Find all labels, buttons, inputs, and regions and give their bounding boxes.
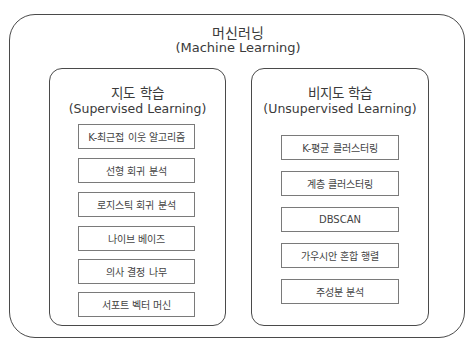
algorithm-item-knn: K-최근접 이웃 알고리즘	[78, 124, 195, 149]
algorithm-item-decision-tree: 의사 결정 나무	[78, 259, 195, 284]
algorithm-item-gaussian-mixture: 가우시안 혼합 행렬	[281, 243, 399, 268]
algorithm-item-pca: 주성분 분석	[281, 279, 399, 304]
algorithm-item-kmeans: K-평균 클러스터링	[281, 135, 399, 160]
algorithm-item-linear-regression: 선형 회귀 분석	[78, 158, 195, 183]
group-title-korean: 비지도 학습	[252, 82, 428, 102]
supervised-learning-group: 지도 학습 (Supervised Learning) K-최근접 이웃 알고리…	[49, 68, 226, 326]
algorithm-item-logistic-regression: 로지스틱 회귀 분석	[78, 192, 195, 217]
unsupervised-learning-group: 비지도 학습 (Unsupervised Learning) K-평균 클러스터…	[251, 68, 429, 326]
algorithm-item-naive-bayes: 나이브 베이즈	[78, 226, 195, 251]
group-title-english: (Unsupervised Learning)	[252, 101, 428, 116]
root-title-english: (Machine Learning)	[0, 40, 476, 55]
group-title-english: (Supervised Learning)	[50, 101, 225, 116]
root-title-korean: 머신러닝	[0, 22, 476, 42]
group-title-korean: 지도 학습	[50, 82, 225, 102]
algorithm-item-hierarchical-clustering: 계층 클러스터링	[281, 171, 399, 196]
algorithm-item-dbscan: DBSCAN	[281, 207, 399, 232]
algorithm-item-svm: 서포트 벡터 머신	[78, 292, 195, 317]
